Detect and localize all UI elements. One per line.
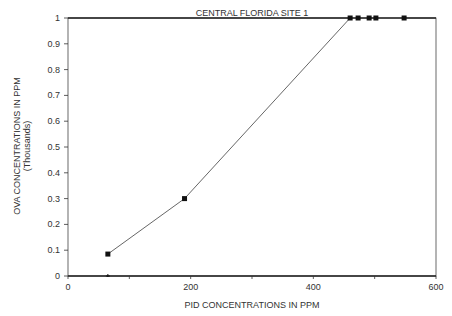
plot-area: 00.10.20.30.40.50.60.70.80.910200400600 [47, 13, 443, 292]
data-point-marker [348, 16, 353, 21]
data-point-marker [105, 252, 110, 257]
y-tick-label: 0.1 [47, 245, 60, 255]
y-tick-label: 0.3 [47, 194, 60, 204]
data-point-marker [402, 16, 407, 21]
y-tick-label: 0.5 [47, 142, 60, 152]
y-axis-sublabel: (Thousands) [22, 121, 32, 172]
y-tick-label: 0 [55, 271, 60, 281]
y-tick-label: 0.9 [47, 39, 60, 49]
x-tick-label: 600 [428, 282, 443, 292]
chart-title: CENTRAL FLORIDA SITE 1 [196, 8, 309, 18]
y-tick-label: 1 [55, 13, 60, 23]
y-tick-label: 0.4 [47, 168, 60, 178]
y-axis-label: OVA CONCENTRATIONS IN PPM [12, 77, 22, 215]
plot-frame [68, 18, 436, 276]
line-chart: CENTRAL FLORIDA SITE 1 00.10.20.30.40.50… [0, 0, 452, 316]
x-tick-label: 0 [65, 282, 70, 292]
y-tick-label: 0.6 [47, 116, 60, 126]
y-tick-label: 0.7 [47, 90, 60, 100]
x-tick-label: 400 [306, 282, 321, 292]
x-axis-label: PID CONCENTRATIONS IN PPM [185, 300, 320, 310]
data-point-marker [373, 16, 378, 21]
series-line [108, 18, 404, 254]
data-point-marker [356, 16, 361, 21]
data-point-marker [367, 16, 372, 21]
data-point-marker [182, 196, 187, 201]
y-tick-label: 0.8 [47, 65, 60, 75]
y-tick-label: 0.2 [47, 219, 60, 229]
x-tick-label: 200 [183, 282, 198, 292]
